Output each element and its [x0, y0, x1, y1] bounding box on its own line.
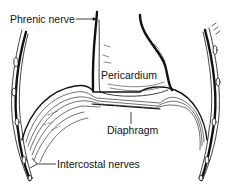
label-pericardium: Pericardium [101, 70, 157, 81]
right-chest-wall [199, 23, 220, 181]
leader-lines [30, 18, 131, 169]
pericardium-sac [93, 12, 172, 96]
label-diaphragm: Diaphragm [107, 125, 158, 136]
label-phrenic-nerve: Phrenic nerve [10, 14, 75, 25]
anatomy-diagram: Phrenic nerve Pericardium Diaphragm Inte… [0, 0, 231, 188]
label-intercostal-nerves: Intercostal nerves [57, 159, 140, 170]
left-chest-wall [12, 30, 32, 181]
